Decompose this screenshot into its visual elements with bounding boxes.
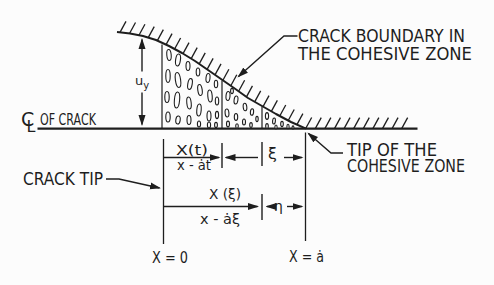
- xxi-numerator: X (ξ): [209, 186, 241, 202]
- dimension-row-xxi: X (ξ) x - ȧξ η: [164, 186, 302, 227]
- boundary-leader-line: [239, 36, 298, 77]
- boundary-label-line1: CRACK BOUNDARY IN: [298, 26, 465, 46]
- cohesive-zone-crack-diagram: uy C L OF CRACK CRACK BOUNDARY IN THE CO…: [0, 0, 494, 285]
- centerline-label: C L OF CRACK: [21, 108, 96, 136]
- xt-denominator: x - ȧt: [177, 157, 211, 173]
- crack-tip-leader-line: [106, 179, 160, 188]
- xt-numerator: X(t): [176, 142, 208, 158]
- origin-position-label: X = 0: [152, 249, 188, 267]
- dimension-row-xt: X(t) x - ȧt ξ: [164, 142, 302, 173]
- zone-tip-leader-line: [309, 134, 344, 154]
- of-crack-label: OF CRACK: [40, 110, 96, 129]
- crack-tip-label: CRACK TIP: [23, 169, 103, 189]
- eta-label: η: [274, 198, 283, 214]
- uy-label: uy: [135, 73, 149, 91]
- zone-tip-label-line2: COHESIVE ZONE: [347, 156, 465, 176]
- figure-canvas: uy C L OF CRACK CRACK BOUNDARY IN THE CO…: [0, 0, 494, 285]
- cohesive-zone-voids: [165, 49, 294, 129]
- zone-tip-position-label: X = ȧ: [289, 248, 324, 266]
- xxi-denominator: x - ȧξ: [200, 211, 240, 227]
- boundary-label-line2: THE COHESIVE ZONE: [297, 44, 472, 64]
- uy-dimension: uy: [135, 40, 149, 125]
- centerline-symbol-l: L: [27, 117, 36, 136]
- xi-label: ξ: [268, 144, 277, 163]
